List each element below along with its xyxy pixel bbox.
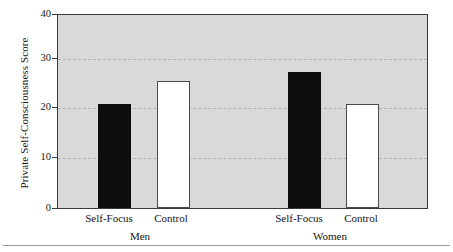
plot-area bbox=[57, 14, 428, 209]
bar-men-control bbox=[157, 81, 190, 208]
bar-chart-figure: Private Self-Consciousness Score 40 30 2… bbox=[0, 0, 453, 252]
gridline-30 bbox=[58, 59, 427, 60]
y-tick-label-0: 0 bbox=[31, 203, 51, 214]
bar-women-control bbox=[346, 104, 379, 208]
y-tick-label-30: 30 bbox=[31, 53, 51, 64]
y-tick-label-20: 20 bbox=[31, 102, 51, 113]
x-tick-label-women-control: Control bbox=[316, 212, 406, 224]
bar-men-self-focus bbox=[98, 104, 131, 208]
bar-women-self-focus bbox=[288, 72, 321, 208]
y-tick-label-40: 40 bbox=[31, 9, 51, 20]
x-tick-label-men-control: Control bbox=[126, 212, 216, 224]
y-tick-label-10: 10 bbox=[31, 152, 51, 163]
footer-divider bbox=[3, 245, 450, 246]
group-label-men: Men bbox=[100, 230, 180, 242]
group-label-women: Women bbox=[290, 230, 370, 242]
y-axis-title: Private Self-Consciousness Score bbox=[18, 13, 30, 213]
